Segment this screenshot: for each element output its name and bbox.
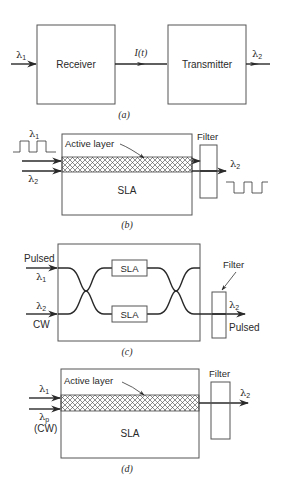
filter-box xyxy=(212,292,226,338)
input-pulse-train-icon xyxy=(13,141,56,152)
panel-c: Pulsed λ1 λ2 CW SLA SLA Filter λ2 Pulsed… xyxy=(24,244,260,358)
output-lambda-label: λ2 xyxy=(230,158,240,170)
input1-lambda-label: λ1 xyxy=(39,383,49,395)
panel-b: λ1 Active layer SLA λ2 Filter λ2 (b) xyxy=(13,128,268,231)
output-lambda-label: λ2 xyxy=(240,387,250,399)
filter-label: Filter xyxy=(197,131,218,142)
active-layer-label: Active layer xyxy=(65,138,114,149)
input1-top-label: Pulsed xyxy=(24,253,55,264)
filter-pointer xyxy=(222,272,236,290)
filter-label: Filter xyxy=(209,368,230,379)
upper-waveguide-out xyxy=(147,268,200,291)
probe-lambda-label: λ2 xyxy=(28,173,38,185)
output-bottom-label: Pulsed xyxy=(229,322,260,333)
caption-a: (a) xyxy=(118,109,130,121)
wavelength-converter-figure: λ1 Receiver I(t) Transmitter λ2 (a) λ1 A… xyxy=(0,0,283,490)
active-layer xyxy=(61,395,199,411)
output-lambda-label: λ2 xyxy=(229,299,239,311)
sla-label: SLA xyxy=(121,428,140,439)
upper-waveguide-in xyxy=(58,268,112,291)
inverted-output-pulse-icon xyxy=(226,182,268,193)
input2-bottom-label: (CW) xyxy=(34,423,57,434)
sla-lower-label: SLA xyxy=(121,309,140,320)
input2-bottom-label: CW xyxy=(33,319,50,330)
output-lambda-label: λ2 xyxy=(252,48,262,60)
sla-label: SLA xyxy=(118,185,137,196)
caption-d: (d) xyxy=(121,463,133,475)
sla-upper-label: SLA xyxy=(121,263,140,274)
caption-c: (c) xyxy=(121,346,133,358)
filter-box xyxy=(211,382,230,439)
active-layer xyxy=(62,157,192,172)
panel-d: Active layer SLA λ1 λp (CW) Filter λ2 (d… xyxy=(29,368,250,475)
lower-waveguide-in xyxy=(58,291,112,314)
active-layer-label: Active layer xyxy=(64,375,113,386)
input2-lambda-label: λ2 xyxy=(36,300,46,312)
filter-label: Filter xyxy=(223,259,244,270)
input1-lambda-label: λ1 xyxy=(36,271,46,283)
caption-b: (b) xyxy=(121,219,133,231)
input-lambda-label: λ1 xyxy=(16,49,26,61)
transmitter-label: Transmitter xyxy=(182,59,233,70)
receiver-label: Receiver xyxy=(56,59,96,70)
active-layer-pointer xyxy=(120,144,144,158)
panel-a: λ1 Receiver I(t) Transmitter λ2 (a) xyxy=(11,25,270,121)
current-signal-label: I(t) xyxy=(134,47,148,59)
pump-lambda-label: λ1 xyxy=(29,128,39,140)
active-layer-pointer xyxy=(122,382,144,395)
